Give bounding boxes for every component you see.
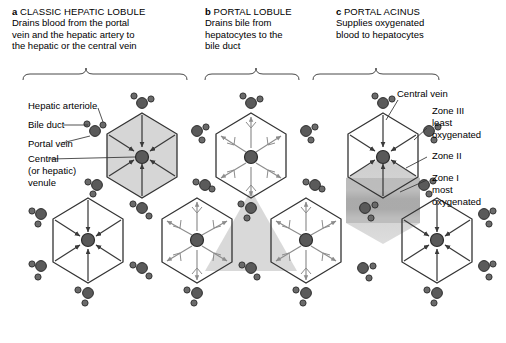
portal-triad bbox=[184, 287, 203, 306]
leader-hepatic-arteriole bbox=[98, 108, 103, 122]
portal-triad bbox=[29, 261, 46, 281]
label-central-venule-line1: Central bbox=[28, 153, 59, 164]
portal-triad bbox=[130, 201, 152, 219]
portal-triad bbox=[85, 179, 103, 197]
label-zone2: Zone II bbox=[432, 150, 462, 161]
portal-triad bbox=[130, 262, 152, 279]
label-zone1-line1: Zone I bbox=[432, 172, 459, 183]
portal-triad bbox=[293, 287, 312, 306]
central-venule bbox=[245, 151, 258, 164]
label-zone3-line3: oxygenated bbox=[432, 129, 481, 140]
portal-triad bbox=[301, 124, 319, 143]
central-venule bbox=[191, 234, 204, 247]
portal-triad bbox=[131, 93, 154, 109]
label-bile-duct: Bile duct bbox=[28, 119, 64, 130]
label-hepatic-arteriole: Hepatic arteriole bbox=[28, 100, 97, 111]
brace-group bbox=[23, 68, 439, 80]
portal-triad bbox=[29, 208, 46, 227]
portal-triad bbox=[192, 124, 209, 143]
central-venule bbox=[377, 151, 390, 164]
label-central-venule-line2: (or hepatic) bbox=[28, 165, 76, 176]
brace-panel-a bbox=[23, 68, 187, 80]
brace-panel-c bbox=[313, 68, 439, 80]
central-venule bbox=[300, 234, 313, 247]
portal-triad bbox=[84, 121, 106, 136]
portal-triad bbox=[75, 287, 94, 306]
label-central-venule-line3: venule bbox=[28, 177, 56, 188]
central-venule bbox=[136, 151, 149, 164]
label-central-vein: Central vein bbox=[397, 88, 448, 99]
label-zone1-line3: oxygenated bbox=[432, 196, 481, 207]
portal-triad bbox=[479, 208, 497, 227]
label-zone3-line1: Zone III bbox=[432, 105, 464, 116]
portal-triad bbox=[424, 287, 443, 306]
portal-triad-group bbox=[29, 93, 496, 306]
leader-zone2 bbox=[406, 157, 427, 168]
label-portal-vein: Portal vein bbox=[28, 138, 73, 149]
label-zone3-line2: least bbox=[432, 117, 452, 128]
central-venule bbox=[431, 234, 444, 247]
label-zone1-line2: most bbox=[432, 184, 453, 195]
portal-triad bbox=[303, 179, 325, 192]
portal-triad bbox=[240, 93, 263, 109]
brace-panel-b bbox=[205, 68, 299, 80]
figure-canvas: a CLASSIC HEPATIC LOBULE Drains blood fr… bbox=[0, 0, 506, 343]
portal-triad bbox=[372, 93, 395, 109]
central-venule bbox=[82, 234, 95, 247]
portal-triad bbox=[479, 261, 497, 281]
portal-triad bbox=[358, 263, 377, 282]
portal-triad bbox=[193, 179, 215, 192]
